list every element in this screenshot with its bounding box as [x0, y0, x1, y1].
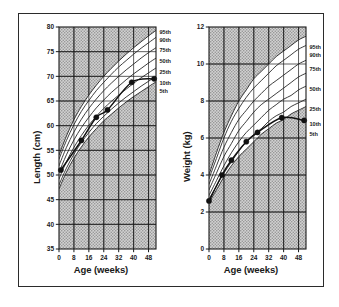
percentile-label-95th: 95th: [160, 29, 172, 35]
percentile-label-5th: 5th: [160, 88, 169, 94]
svg-text:8: 8: [72, 254, 76, 261]
percentile-label-95th: 95th: [310, 44, 322, 50]
percentile-label-50th: 50th: [310, 86, 322, 92]
svg-text:16: 16: [235, 254, 243, 261]
svg-text:48: 48: [295, 254, 303, 261]
svg-text:8: 8: [200, 97, 204, 104]
percentile-label-25th: 25th: [160, 69, 172, 75]
svg-text:24: 24: [250, 254, 258, 261]
svg-text:40: 40: [130, 254, 138, 261]
svg-text:0: 0: [207, 254, 211, 261]
weight-y-axis-title: Weight (kg): [181, 132, 192, 182]
svg-text:12: 12: [197, 23, 205, 30]
percentile-label-90th: 90th: [160, 37, 172, 43]
length-y-axis-title: Length (cm): [31, 131, 42, 184]
percentile-label-75th: 75th: [310, 66, 322, 72]
svg-text:40: 40: [47, 221, 55, 228]
percentile-label-50th: 50th: [160, 58, 172, 64]
percentile-label-10th: 10th: [160, 80, 172, 86]
svg-text:65: 65: [47, 97, 55, 104]
percentile-label-75th: 75th: [160, 47, 172, 53]
chart-weight-for-age: 02468101208162432404895th90th75th50th25t…: [171, 14, 324, 288]
svg-text:6: 6: [200, 134, 204, 141]
length-x-axis-title: Age (weeks): [41, 264, 161, 275]
percentile-label-90th: 90th: [310, 52, 322, 58]
figure-border: 3540455055606570758008162432404895th90th…: [18, 13, 324, 287]
svg-text:24: 24: [100, 254, 108, 261]
svg-text:32: 32: [265, 254, 273, 261]
svg-text:55: 55: [47, 147, 55, 154]
svg-text:16: 16: [85, 254, 93, 261]
chart-length-for-age: 3540455055606570758008162432404895th90th…: [19, 14, 172, 288]
svg-text:80: 80: [47, 23, 55, 30]
svg-text:0: 0: [57, 254, 61, 261]
weight-chart-svg: 02468101208162432404895th90th75th50th25t…: [171, 14, 324, 288]
percentile-label-25th: 25th: [310, 106, 322, 112]
percentile-label-10th: 10th: [310, 121, 322, 127]
svg-text:10: 10: [197, 60, 205, 67]
svg-text:40: 40: [280, 254, 288, 261]
svg-text:0: 0: [200, 245, 204, 252]
percentile-label-5th: 5th: [310, 131, 319, 137]
svg-text:70: 70: [47, 73, 55, 80]
svg-text:4: 4: [200, 171, 204, 178]
svg-text:8: 8: [222, 254, 226, 261]
svg-text:32: 32: [115, 254, 123, 261]
svg-text:35: 35: [47, 245, 55, 252]
svg-text:75: 75: [47, 48, 55, 55]
svg-text:60: 60: [47, 122, 55, 129]
svg-text:48: 48: [145, 254, 153, 261]
weight-x-axis-title: Age (weeks): [191, 264, 311, 275]
svg-text:45: 45: [47, 196, 55, 203]
svg-text:2: 2: [200, 208, 204, 215]
svg-text:50: 50: [47, 171, 55, 178]
